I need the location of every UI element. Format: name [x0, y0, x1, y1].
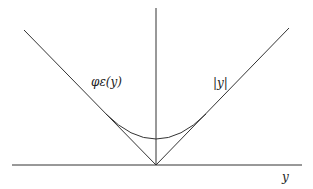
abs-left-branch — [24, 30, 156, 165]
diagram-canvas — [0, 0, 313, 189]
phi-epsilon-label: φε(y) — [91, 75, 122, 89]
abs-y-label: |y| — [213, 76, 228, 90]
y-axis-label: y — [282, 170, 289, 184]
abs-right-branch — [156, 28, 289, 165]
